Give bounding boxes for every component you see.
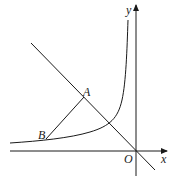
origin-label: O xyxy=(124,152,133,166)
y-axis-label: y xyxy=(125,3,132,17)
coordinate-diagram: y x O A B xyxy=(0,0,175,187)
point-a-label: A xyxy=(82,85,91,99)
diagram-canvas: y x O A B xyxy=(0,0,175,187)
segment-ab xyxy=(46,97,84,139)
point-b-label: B xyxy=(38,128,46,142)
x-axis-label: x xyxy=(160,152,167,166)
